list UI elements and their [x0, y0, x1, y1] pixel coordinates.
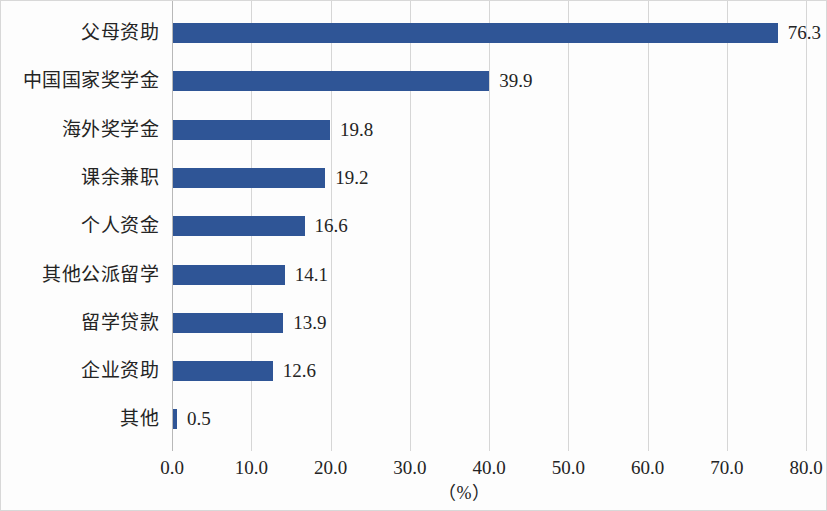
x-tick-label: 20.0 — [314, 457, 347, 479]
bar-and-value: 13.9 — [173, 313, 326, 333]
x-axis-title: （%） — [1, 482, 827, 504]
category-label: 父母资助 — [1, 22, 159, 44]
category-label: 企业资助 — [1, 360, 159, 382]
bar-and-value: 0.5 — [173, 409, 211, 429]
category-label: 海外奖学金 — [1, 119, 159, 141]
category-label: 个人资金 — [1, 215, 159, 237]
x-tick-label: 60.0 — [631, 457, 664, 479]
x-tick-label: 40.0 — [472, 457, 505, 479]
bar-row: 留学贷款13.9 — [1, 298, 827, 348]
bar-row: 课余兼职19.2 — [1, 153, 827, 203]
bar-and-value: 19.2 — [173, 168, 368, 188]
category-label: 其他公派留学 — [1, 264, 159, 286]
bar — [173, 71, 489, 91]
bar-chart: 父母资助76.3中国国家奖学金39.9海外奖学金19.8课余兼职19.2个人资金… — [0, 0, 827, 511]
category-label: 其他 — [1, 408, 159, 430]
bar — [173, 313, 283, 333]
bar-value-label: 16.6 — [315, 216, 348, 236]
bar-and-value: 76.3 — [173, 23, 821, 43]
x-tick-label: 10.0 — [235, 457, 268, 479]
category-label: 课余兼职 — [1, 167, 159, 189]
bar — [173, 216, 305, 236]
x-tick-label: 70.0 — [710, 457, 743, 479]
bar-row: 其他公派留学14.1 — [1, 250, 827, 300]
bar-row: 海外奖学金19.8 — [1, 105, 827, 155]
bar-and-value: 39.9 — [173, 71, 532, 91]
x-tick-label: 0.0 — [160, 457, 184, 479]
category-label: 留学贷款 — [1, 312, 159, 334]
x-tick-label: 30.0 — [393, 457, 426, 479]
bar-value-label: 14.1 — [295, 265, 328, 285]
bar-and-value: 14.1 — [173, 265, 328, 285]
bar-row: 其他0.5 — [1, 394, 827, 444]
category-label: 中国国家奖学金 — [1, 70, 159, 92]
x-tick-label: 80.0 — [789, 457, 822, 479]
bar-and-value: 16.6 — [173, 216, 348, 236]
bar-row: 个人资金16.6 — [1, 201, 827, 251]
bar-row: 企业资助12.6 — [1, 346, 827, 396]
x-tick-label: 50.0 — [552, 457, 585, 479]
bar — [173, 23, 778, 43]
bar-value-label: 76.3 — [788, 23, 821, 43]
bar-value-label: 19.8 — [340, 120, 373, 140]
bar-value-label: 19.2 — [335, 168, 368, 188]
bar-and-value: 12.6 — [173, 361, 316, 381]
x-axis-title-text: （%） — [438, 483, 492, 503]
bar-value-label: 12.6 — [283, 361, 316, 381]
bar-row: 中国国家奖学金39.9 — [1, 56, 827, 106]
bar — [173, 120, 330, 140]
bar-row: 父母资助76.3 — [1, 8, 827, 58]
bar-value-label: 13.9 — [293, 313, 326, 333]
bar-and-value: 19.8 — [173, 120, 373, 140]
bar — [173, 409, 177, 429]
bar-value-label: 0.5 — [187, 409, 211, 429]
bar — [173, 361, 273, 381]
bar — [173, 265, 285, 285]
bar-value-label: 39.9 — [499, 71, 532, 91]
bar — [173, 168, 325, 188]
